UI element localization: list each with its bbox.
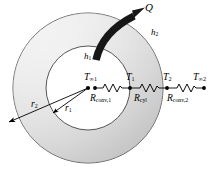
- node-label-t-inf2: T∞2: [193, 72, 206, 83]
- node-label-t-inf1: T∞1: [84, 72, 97, 83]
- radius-inner-sub: 1: [69, 107, 72, 113]
- resistor-conv2-zigzag: [177, 84, 196, 92]
- resistor-label-conv1: Rconv,1: [90, 94, 111, 104]
- h-outer-label: h2: [151, 28, 158, 38]
- node-dot-t2: [165, 86, 169, 90]
- cylinder-axis-point: [86, 86, 90, 90]
- figure-graphics: [0, 0, 215, 175]
- t-inf2-sub: ∞2: [199, 75, 207, 82]
- cylindrical-conduction-figure: Q h1 h2 r2 r1 T∞1 T1 T2 T∞2 Rconv,1 Rcyl…: [0, 0, 215, 175]
- h-inner-sub: 1: [89, 55, 92, 61]
- resistor-label-conv2: Rconv,2: [167, 94, 188, 104]
- t-inf1-sub: ∞1: [90, 75, 98, 82]
- node-dot-t1: [128, 86, 132, 90]
- radius-outer-label: r2: [31, 100, 38, 110]
- resistor-label-cyl: Rcyl: [134, 94, 147, 104]
- t2-sub: 2: [169, 75, 172, 82]
- node-dot-t-inf2: [202, 86, 206, 90]
- node-label-t2: T2: [163, 72, 172, 83]
- h-outer-sub: 2: [156, 31, 159, 37]
- node-label-t1: T1: [126, 72, 135, 83]
- t1-sub: 1: [132, 75, 135, 82]
- node-dot-t-inf1: [93, 86, 97, 90]
- r-conv1-sub: conv,1: [96, 97, 111, 103]
- r-cyl-sub: cyl: [140, 97, 147, 103]
- heat-flow-symbol: Q: [145, 1, 153, 13]
- heat-flow-label: Q: [145, 2, 153, 13]
- radius-outer-sub: 2: [35, 103, 38, 109]
- h-inner-label: h1: [84, 52, 91, 62]
- radius-inner-label: r1: [65, 104, 72, 114]
- r-conv2-sub: conv,2: [173, 97, 188, 103]
